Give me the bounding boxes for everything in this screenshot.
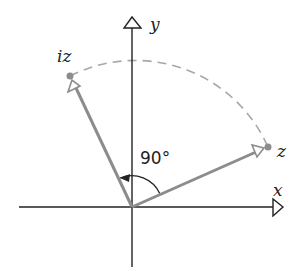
y-axis-arrow-icon — [124, 17, 141, 28]
x-axis-label: x — [273, 180, 283, 200]
x-axis-arrow-icon — [273, 199, 283, 216]
point-z — [265, 144, 272, 151]
rotation-arc — [70, 60, 268, 147]
vector-z-arrow-icon — [252, 145, 264, 157]
point-iz — [67, 73, 74, 80]
angle-arrow-icon — [120, 174, 130, 182]
vector-iz — [76, 88, 132, 207]
angle-label: 90° — [140, 148, 170, 168]
label-iz: iz — [57, 46, 72, 66]
y-axis-label: y — [149, 14, 160, 34]
label-z: z — [276, 141, 287, 161]
complex-rotation-diagram: y x z iz 90° — [0, 0, 305, 279]
